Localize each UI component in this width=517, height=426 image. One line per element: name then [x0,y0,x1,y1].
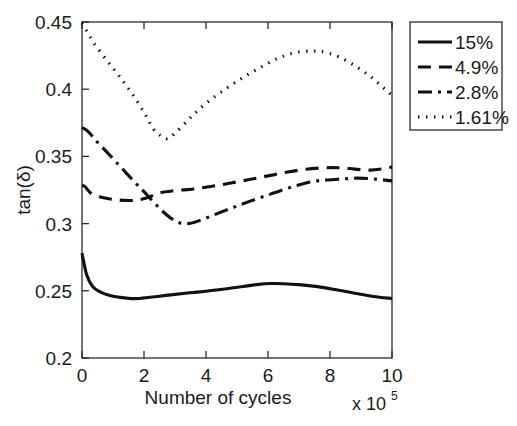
plot-frame [82,22,392,358]
x-tick-label: 0 [77,365,88,386]
y-tick-label: 0.25 [35,281,72,302]
y-axis-title: tan(δ) [13,165,34,215]
y-tick-label: 0.4 [46,79,73,100]
data-series-line [82,128,392,224]
x-tick-label: 2 [139,365,150,386]
x-tick-label: 8 [325,365,336,386]
data-series-line [82,23,392,139]
x-tick-label: 6 [263,365,274,386]
data-series-line [82,253,392,298]
data-series-line [82,167,392,201]
chart-svg: 0.20.250.30.350.40.45 0246810 tan(δ) Num… [0,0,517,426]
legend-item-label: 1.61% [455,107,509,128]
y-tick-label: 0.35 [35,146,72,167]
y-tick-label: 0.45 [35,12,72,33]
x-axis-title: Number of cycles [145,387,292,408]
y-tick-label: 0.2 [46,348,72,369]
x-axis-multiplier: x 10 [352,394,386,414]
legend-item-label: 15% [455,32,493,53]
x-tick-label: 4 [201,365,212,386]
legend-item-label: 4.9% [455,57,498,78]
y-axis-tick-labels: 0.20.250.30.350.40.45 [35,12,72,369]
data-curves [82,23,392,299]
chart-figure: 0.20.250.30.350.40.45 0246810 tan(δ) Num… [0,0,517,426]
legend-item-label: 2.8% [455,82,498,103]
x-axis-multiplier-exponent: 5 [391,389,398,403]
x-axis-ticks [82,22,392,358]
x-axis-tick-labels: 0246810 [77,365,403,386]
y-tick-label: 0.3 [46,214,72,235]
x-tick-label: 10 [381,365,402,386]
